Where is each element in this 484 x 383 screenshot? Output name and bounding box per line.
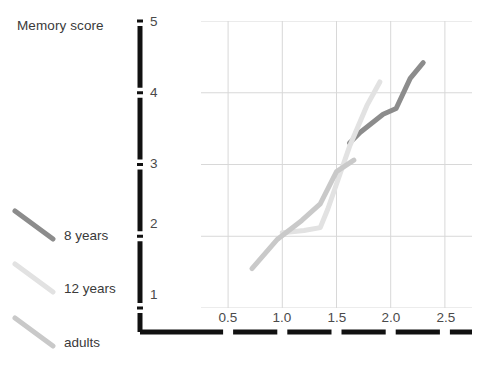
y-tick-label-2: 2 [150,216,158,231]
x-tick-label-2-0: 2.0 [382,310,401,325]
series-line-12-years [282,82,380,233]
legend-entry-12-years: 12 years [8,261,138,307]
legend-swatch-12-years [12,261,56,295]
legend-label-adults: adults [64,335,100,350]
x-tick-label-0-5: 0.5 [219,310,238,325]
legend-entry-8-years: 8 years [8,208,138,254]
y-tick-label-4: 4 [150,85,158,100]
y-tick-label-1: 1 [150,287,158,302]
legend-label-8-years: 8 years [64,228,108,243]
plot-area [201,21,472,308]
x-tick-label-2-5: 2.5 [437,310,456,325]
legend-swatch-adults [12,315,56,349]
x-tick-label-1-5: 1.5 [328,310,347,325]
plot-series-layer [201,21,472,308]
chart-figure: Memory score 5 4 3 2 1 0.5 1.0 1.5 2.0 2… [0,0,484,383]
legend-swatch-8-years [12,208,56,242]
y-tick-label-5: 5 [150,14,158,29]
legend-label-12-years: 12 years [64,281,116,296]
series-line-8-years [350,63,424,143]
y-axis-title: Memory score [17,18,104,33]
y-tick-label-3: 3 [150,156,158,171]
legend-entry-adults: adults [8,315,138,361]
x-tick-label-1-0: 1.0 [273,310,292,325]
